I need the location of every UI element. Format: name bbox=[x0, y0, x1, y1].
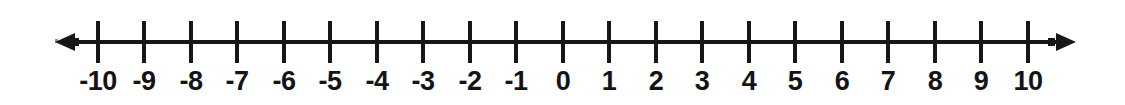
tick-mark bbox=[514, 21, 518, 63]
tick-mark bbox=[561, 21, 565, 63]
tick-mark bbox=[282, 21, 286, 63]
tick-mark bbox=[654, 21, 658, 63]
tick-mark bbox=[607, 21, 611, 63]
tick-mark bbox=[468, 21, 472, 63]
tick-mark bbox=[235, 21, 239, 63]
tick-mark bbox=[979, 21, 983, 63]
tick-mark bbox=[840, 21, 844, 63]
tick-mark bbox=[747, 21, 751, 63]
tick-mark bbox=[793, 21, 797, 63]
tick-mark bbox=[328, 21, 332, 63]
tick-mark bbox=[1026, 21, 1030, 63]
tick-mark bbox=[189, 21, 193, 63]
tick-mark bbox=[421, 21, 425, 63]
number-line-figure: -10-9-8-7-6-5-4-3-2-1012345678910 bbox=[0, 0, 1125, 105]
tick-mark bbox=[96, 21, 100, 63]
tick-mark bbox=[700, 21, 704, 63]
tick-mark bbox=[933, 21, 937, 63]
right-arrow-icon bbox=[1056, 33, 1076, 51]
right-arrow-notch bbox=[1048, 38, 1055, 46]
tick-mark bbox=[142, 21, 146, 63]
tick-mark bbox=[886, 21, 890, 63]
left-arrow-icon bbox=[55, 33, 75, 51]
tick-label: 10 bbox=[988, 66, 1068, 96]
tick-mark bbox=[375, 21, 379, 63]
